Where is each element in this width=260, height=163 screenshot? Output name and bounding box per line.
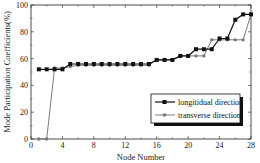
legend: longitidual direction transverse directi… <box>151 94 243 126</box>
data-point <box>186 54 190 58</box>
data-point <box>202 47 206 51</box>
data-point <box>178 54 182 58</box>
data-point <box>115 62 119 66</box>
data-point <box>218 37 222 41</box>
data-point <box>53 67 57 71</box>
x-tick-label: 0 <box>29 141 33 150</box>
data-point <box>139 62 143 66</box>
y-tick-label: 40 <box>20 81 28 90</box>
y-axis-title: Mode Participation Coefficients(%) <box>2 11 12 133</box>
data-point <box>45 137 48 140</box>
axis-ticks: 0481216202428020406080100 <box>16 1 255 150</box>
x-tick-label: 8 <box>92 141 96 150</box>
square-marker-icon <box>163 100 167 104</box>
data-point <box>84 62 88 66</box>
data-point <box>194 47 198 51</box>
x-axis-title: Node Number <box>117 152 166 162</box>
y-tick-label: 60 <box>20 55 28 64</box>
x-tick-label: 4 <box>60 141 64 150</box>
data-point <box>202 54 205 57</box>
y-tick-label: 80 <box>20 28 28 37</box>
x-tick-label: 24 <box>216 141 224 150</box>
data-point <box>37 67 41 71</box>
y-tick-label: 20 <box>20 108 28 117</box>
data-point <box>123 62 127 66</box>
data-point <box>37 137 40 140</box>
circle-marker-icon <box>163 113 167 117</box>
data-point <box>163 58 167 62</box>
x-tick-label: 16 <box>153 141 161 150</box>
data-point <box>76 62 80 66</box>
data-point <box>92 62 96 66</box>
data-point <box>147 62 151 66</box>
line-chart: 0481216202428020406080100 Node Number Mo… <box>0 0 260 163</box>
data-point <box>131 62 135 66</box>
data-point <box>210 47 214 51</box>
y-tick-label: 0 <box>24 135 28 144</box>
y-tick-label: 100 <box>16 1 28 10</box>
x-tick-label: 20 <box>184 141 192 150</box>
data-point <box>241 38 244 41</box>
data-point <box>60 67 64 71</box>
data-point <box>155 58 159 62</box>
data-point <box>194 54 197 57</box>
legend-label-transverse: transverse direction <box>178 111 241 120</box>
legend-label-longitudinal: longitidual direction <box>178 98 243 107</box>
data-point <box>45 67 49 71</box>
data-point <box>170 58 174 62</box>
data-point <box>210 38 213 41</box>
data-point <box>108 62 112 66</box>
series-longitudinal <box>37 12 253 71</box>
data-point <box>100 62 104 66</box>
data-point <box>233 18 237 22</box>
data-point <box>68 62 72 66</box>
data-point <box>234 38 237 41</box>
x-tick-label: 12 <box>121 141 129 150</box>
data-point <box>225 37 229 41</box>
x-tick-label: 28 <box>247 141 255 150</box>
data-point <box>241 12 245 16</box>
data-point <box>249 12 253 16</box>
